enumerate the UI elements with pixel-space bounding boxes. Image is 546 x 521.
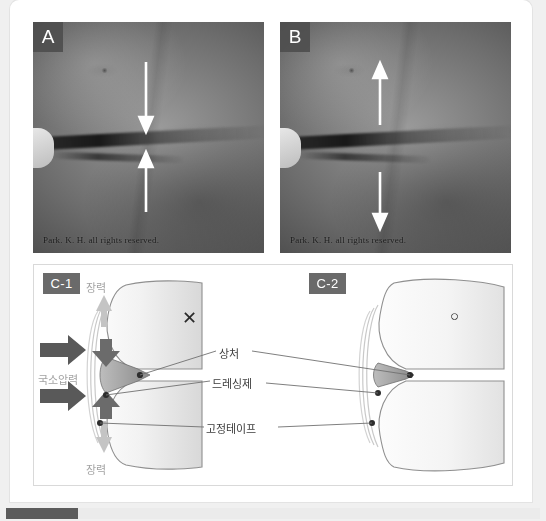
arrow-up-head bbox=[374, 63, 387, 78]
label-local-pressure: 국소압력 bbox=[38, 371, 78, 387]
diagram-artwork bbox=[34, 265, 512, 485]
c2-leader-tape bbox=[278, 423, 372, 427]
horizontal-scrollbar-thumb[interactable] bbox=[6, 508, 78, 519]
label-tension-top: 장력 bbox=[86, 279, 106, 295]
horizontal-scrollbar-track[interactable] bbox=[6, 508, 540, 519]
label-wound: 상처 bbox=[219, 345, 239, 361]
panel-letter-b: B bbox=[280, 22, 310, 52]
arrow-down-head bbox=[140, 117, 153, 132]
photo-panel-a: A Park. K. H. all rights reserved. bbox=[33, 22, 264, 253]
label-dressing: 드레싱제 bbox=[212, 375, 252, 391]
photo-a-arrow-overlay bbox=[33, 22, 264, 253]
subpanel-badge-c2: C-2 bbox=[309, 273, 346, 294]
panel-letter-a: A bbox=[33, 22, 63, 52]
verdict-mark-o: ○ bbox=[450, 307, 459, 324]
arrow-up-head bbox=[140, 152, 153, 167]
diagram-panel-c: C-1 C-2 ✕ ○ 장력 장력 국소압력 상처 드레싱제 고정테이프 bbox=[33, 264, 513, 486]
label-tension-bottom: 장력 bbox=[86, 461, 106, 477]
c2-leader-dressing bbox=[266, 383, 378, 393]
subpanel-badge-c1: C-1 bbox=[43, 273, 80, 294]
c2-leader-wound bbox=[252, 351, 410, 375]
label-fixation-tape: 고정테이프 bbox=[206, 420, 256, 436]
document-page: A Park. K. H. all rights reserved. B Par… bbox=[10, 0, 532, 502]
photo-b-copyright: Park. K. H. all rights reserved. bbox=[290, 235, 406, 245]
photo-a-copyright: Park. K. H. all rights reserved. bbox=[43, 235, 159, 245]
verdict-mark-x: ✕ bbox=[182, 307, 197, 329]
pressure-arrow-upper bbox=[40, 335, 86, 365]
c2-schematic bbox=[252, 279, 504, 471]
c2-upper-lobe bbox=[379, 279, 504, 369]
photo-b-arrow-overlay bbox=[280, 22, 511, 253]
c1-tape-layer-3 bbox=[87, 311, 98, 443]
arrow-down-head bbox=[374, 214, 387, 229]
photo-panel-b: B Park. K. H. all rights reserved. bbox=[280, 22, 511, 253]
c2-lower-lobe bbox=[379, 381, 504, 471]
